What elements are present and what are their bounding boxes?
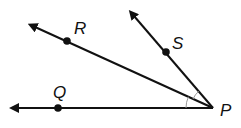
ray-ps <box>134 16 213 108</box>
label-s: S <box>172 34 184 53</box>
angle-arc-qpr <box>186 97 188 108</box>
label-q: Q <box>53 83 66 102</box>
point-s <box>162 48 170 56</box>
point-r <box>63 37 71 45</box>
label-r: R <box>74 19 86 38</box>
angle-arc-rps <box>193 91 199 99</box>
angle-diagram: R S Q P <box>0 0 241 128</box>
label-p: P <box>220 101 232 120</box>
point-q <box>54 104 62 112</box>
